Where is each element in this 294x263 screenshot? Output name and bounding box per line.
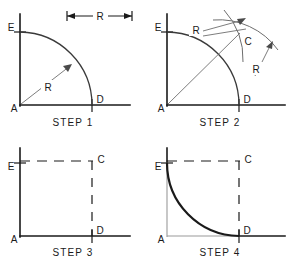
step1-radius-label: R bbox=[44, 82, 51, 93]
step2-arc-from-E bbox=[224, 10, 243, 62]
arrow-left-icon bbox=[67, 13, 75, 19]
step2-point-label-E: E bbox=[155, 22, 162, 33]
step1-point-label-D: D bbox=[96, 94, 103, 105]
step2-radius-label-lower: R bbox=[252, 64, 259, 75]
step1-group: R E A D STEP 1 bbox=[8, 14, 130, 128]
step4-point-label-E: E bbox=[155, 161, 162, 172]
step4-group: E A C D STEP 4 bbox=[155, 148, 285, 258]
step2-point-label-A: A bbox=[158, 103, 165, 114]
step3-point-label-D: D bbox=[96, 225, 103, 236]
step3-group: E A C D STEP 3 bbox=[8, 148, 130, 258]
step3-point-label-C: C bbox=[97, 154, 104, 165]
step3-point-label-A: A bbox=[11, 234, 18, 245]
step3-caption: STEP 3 bbox=[53, 247, 94, 258]
step1-point-label-E: E bbox=[8, 22, 15, 33]
step4-caption: STEP 4 bbox=[200, 247, 241, 258]
step3-point-label-E: E bbox=[8, 161, 15, 172]
step1-caption: STEP 1 bbox=[53, 117, 94, 128]
dimension-bar: R bbox=[67, 9, 132, 23]
construction-figure: R R E A D STEP 1 bbox=[0, 0, 294, 263]
step1-point-label-A: A bbox=[11, 103, 18, 114]
step2-radius-label-upper: R bbox=[192, 25, 199, 36]
step4-point-label-D: D bbox=[243, 225, 250, 236]
step4-point-label-A: A bbox=[158, 234, 165, 245]
step2-radius-arrow-lower-icon bbox=[266, 41, 273, 49]
step2-group: R R E A D C STEP 2 bbox=[155, 10, 285, 128]
step2-point-label-D: D bbox=[243, 94, 250, 105]
dimension-bar-label: R bbox=[96, 11, 103, 22]
step4-point-label-C: C bbox=[244, 154, 251, 165]
arrow-right-icon bbox=[124, 13, 132, 19]
step4-fillet-arc bbox=[167, 163, 239, 236]
step2-point-label-C: C bbox=[244, 36, 251, 47]
step1-quarter-arc bbox=[20, 32, 92, 105]
step2-caption: STEP 2 bbox=[200, 117, 241, 128]
diagram-canvas: R R E A D STEP 1 bbox=[0, 0, 294, 263]
